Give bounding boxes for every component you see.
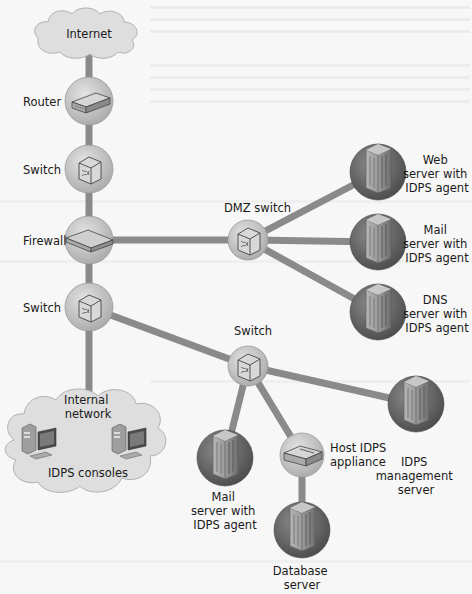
router-label: Router <box>23 95 61 109</box>
idps-consoles-label: IDPS consoles <box>48 466 128 480</box>
mail-server-dmz-label: Mail server with IDPS agent <box>403 223 471 265</box>
internal-network-label: Internal network <box>64 393 112 421</box>
server-icon <box>366 214 391 263</box>
switch-icon <box>238 354 260 381</box>
database-server-node[interactable]: Database server <box>273 502 332 592</box>
switch-internal-node[interactable]: Switch <box>23 283 113 331</box>
link-switch-lower <box>89 307 248 366</box>
switch-icon <box>79 295 101 322</box>
switch-top-label: Switch <box>23 163 61 177</box>
web-server-node[interactable]: Web server with IDPS agent <box>350 144 471 200</box>
router-node[interactable]: Router <box>23 77 113 125</box>
dns-server-node[interactable]: DNS server with IDPS agent <box>350 284 471 340</box>
mail-server-internal-label: Mail server with IDPS agent <box>191 490 259 532</box>
switch-internal-label: Switch <box>23 301 61 315</box>
dmz-switch-node[interactable]: DMZ switch <box>224 201 291 260</box>
server-icon <box>213 430 238 479</box>
firewall-label: Firewall <box>23 234 66 248</box>
dmz-switch-label: DMZ switch <box>224 201 291 215</box>
host-idps-appliance-label: Host IDPS appliance <box>330 441 390 469</box>
server-icon <box>404 376 429 425</box>
mail-server-internal-node[interactable]: Mail server with IDPS agent <box>191 430 259 532</box>
internet-cloud: Internet <box>35 8 137 58</box>
switch-top-node[interactable]: Switch <box>23 145 113 193</box>
firewall-node[interactable]: Firewall <box>23 216 113 264</box>
switch-icon <box>238 228 260 255</box>
host-idps-appliance-node[interactable]: Host IDPS appliance <box>280 433 390 477</box>
mail-server-dmz-node[interactable]: Mail server with IDPS agent <box>350 214 471 270</box>
internet-label: Internet <box>66 27 112 41</box>
switch-lower-node[interactable]: Switch <box>228 324 272 386</box>
network-diagram: Internet Router Switch Firewall Switch <box>0 0 472 594</box>
switch-icon <box>79 157 101 184</box>
internal-network-cloud: Internal network IDPS consoles <box>5 389 166 492</box>
idps-management-server-label: IDPS management server <box>376 455 457 497</box>
switch-lower-label: Switch <box>234 324 272 338</box>
server-icon <box>290 502 315 551</box>
web-server-label: Web server with IDPS agent <box>403 153 471 195</box>
server-icon <box>366 144 391 193</box>
database-server-label: Database server <box>273 564 332 592</box>
server-icon <box>366 284 391 333</box>
dns-server-label: DNS server with IDPS agent <box>403 293 471 335</box>
